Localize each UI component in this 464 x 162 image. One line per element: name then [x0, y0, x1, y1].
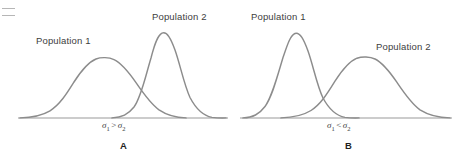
panel-b-label-population-1: Population 1 [251, 11, 306, 22]
panel-a-sigma-note: σ1>σ2 [102, 120, 125, 132]
statistics-figure: Population 1 Population 2 σ1>σ2 A Popula… [0, 0, 464, 162]
panel-a-label-population-2: Population 2 [152, 11, 207, 22]
panel-a-letter: A [120, 140, 127, 151]
distribution-curves-canvas [0, 0, 464, 162]
panel-b-letter: B [345, 140, 352, 151]
panel-a-sigma-2-subscript: 2 [122, 125, 125, 132]
panel-b-sigma-note: σ1<σ2 [327, 120, 350, 132]
panel-a-label-population-1: Population 1 [36, 35, 91, 46]
panel-a-relation-operator: > [110, 120, 118, 130]
panel-b-label-population-2: Population 2 [376, 41, 431, 52]
panel-b-relation-operator: < [335, 120, 343, 130]
panel-b-sigma-2-subscript: 2 [347, 125, 350, 132]
panel-b-curve-population-2 [281, 57, 450, 118]
panel-a-curve-population-2 [112, 33, 226, 118]
panel-a-curve-population-1 [20, 58, 186, 118]
panel-b-curve-population-1 [243, 33, 359, 118]
